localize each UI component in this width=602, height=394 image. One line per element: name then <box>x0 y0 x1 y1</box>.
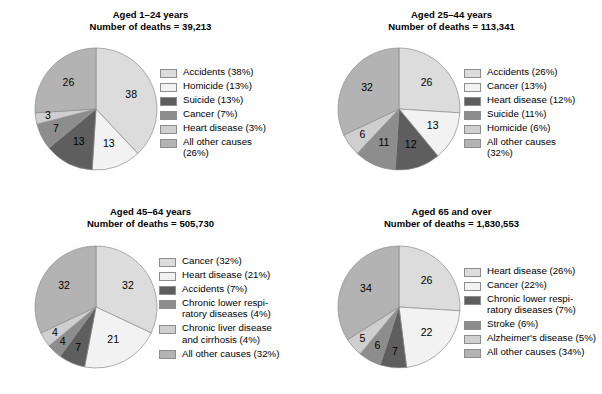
chart-title-line1: Aged 65 and over <box>412 206 492 217</box>
pie-slice-label: 7 <box>392 345 398 357</box>
pie-slice-label: 26 <box>421 274 433 286</box>
pie-slice-label: 26 <box>421 76 433 88</box>
legend-2: Accidents (26%)Cancer (13%)Heart disease… <box>464 66 602 161</box>
legend-swatch <box>464 83 481 92</box>
legend-item: Cancer (32%) <box>159 255 304 267</box>
pie-slice-label: 6 <box>374 339 380 351</box>
legend-label: Heart disease (26%) <box>487 265 575 276</box>
pie-slice-label: 11 <box>379 136 390 148</box>
legend-item: Homicide (6%) <box>464 122 602 134</box>
legend-swatch <box>464 139 481 148</box>
legend-swatch <box>464 349 481 358</box>
legend-swatch <box>160 139 177 148</box>
legend-item: Accidents (26%) <box>464 66 602 78</box>
pie-slice-label: 26 <box>63 76 75 88</box>
legend-swatch <box>464 296 481 305</box>
legend-label: Chronic lower respi- ratory diseases (4%… <box>182 297 271 320</box>
legend-label: Cancer (13%) <box>487 80 547 91</box>
legend-item: Heart disease (26%) <box>464 265 602 277</box>
pie-slice-label: 4 <box>52 326 58 338</box>
legend-label: Cancer (22%) <box>487 279 547 290</box>
pie-slice-label: 12 <box>405 138 417 150</box>
legend-item: Heart disease (12%) <box>464 94 602 106</box>
pie-slice-label: 22 <box>421 326 433 338</box>
chart-title-2: Aged 25–44 years Number of deaths = 113,… <box>301 9 602 32</box>
pie-slice-label: 7 <box>53 122 59 134</box>
chart-title-line1: Aged 45–64 years <box>110 206 191 217</box>
pie-chart-1: 3813137326 <box>34 47 158 171</box>
legend-swatch <box>159 325 176 334</box>
legend-item: Cancer (7%) <box>160 108 295 120</box>
legend-item: Homicide (13%) <box>160 80 295 92</box>
chart-subtitle-line2: Number of deaths = 113,341 <box>301 21 602 33</box>
legend-item: Suicide (13%) <box>160 94 295 106</box>
legend-item: Heart disease (21%) <box>159 269 304 281</box>
pie-chart-2: 26131211632 <box>337 47 461 171</box>
legend-swatch <box>160 69 177 78</box>
pie-chart-3: 322174432 <box>34 245 158 369</box>
legend-label: Heart disease (12%) <box>487 94 575 105</box>
legend-label: All other causes (26%) <box>183 136 252 159</box>
legend-swatch <box>464 69 481 78</box>
legend-label: Heart disease (21%) <box>182 269 270 280</box>
chart-title-line1: Aged 25–44 years <box>411 9 492 20</box>
chart-panel-aged-65-over: Aged 65 and over Number of deaths = 1,83… <box>301 197 602 394</box>
pie-chart-4: 262276534 <box>337 245 461 369</box>
legend-item: Suicide (11%) <box>464 108 602 120</box>
legend-label: Chronic liver disease and cirrhosis (4%) <box>182 322 272 345</box>
legend-item: Chronic lower respi- ratory diseases (7%… <box>464 293 602 316</box>
pie-slice-label: 4 <box>60 335 66 347</box>
legend-3: Cancer (32%)Heart disease (21%)Accidents… <box>159 255 304 362</box>
legend-label: All other causes (32%) <box>182 348 279 359</box>
chart-subtitle-line2: Number of deaths = 505,730 <box>0 218 301 230</box>
legend-item: All other causes (32%) <box>464 136 602 159</box>
legend-label: Cancer (32%) <box>182 255 242 266</box>
legend-label: Homicide (6%) <box>487 122 551 133</box>
legend-label: All other causes (32%) <box>487 136 556 159</box>
legend-swatch <box>159 300 176 309</box>
legend-label: Chronic lower respi- ratory diseases (7%… <box>487 293 576 316</box>
legend-swatch <box>159 350 176 359</box>
legend-item: Alzheimer's disease (5%) <box>464 332 602 344</box>
legend-item: Cancer (22%) <box>464 279 602 291</box>
legend-swatch <box>464 335 481 344</box>
legend-1: Accidents (38%)Homicide (13%)Suicide (13… <box>160 66 295 161</box>
chart-title-line1: Aged 1–24 years <box>113 9 189 20</box>
legend-item: Stroke (6%) <box>464 318 602 330</box>
legend-label: Stroke (6%) <box>487 318 538 329</box>
legend-label: Accidents (26%) <box>487 66 558 77</box>
legend-swatch <box>159 258 176 267</box>
legend-label: Accidents (7%) <box>182 283 247 294</box>
pie-slice-label: 6 <box>360 128 366 140</box>
legend-swatch <box>160 125 177 134</box>
legend-item: Chronic liver disease and cirrhosis (4%) <box>159 322 304 345</box>
legend-item: Chronic lower respi- ratory diseases (4%… <box>159 297 304 320</box>
pie-slice-label: 32 <box>361 81 373 93</box>
legend-swatch <box>159 272 176 281</box>
legend-label: All other causes (34%) <box>487 346 584 357</box>
legend-swatch <box>464 125 481 134</box>
pie-slice-label: 34 <box>360 282 372 294</box>
pie-slice-label: 5 <box>359 332 365 344</box>
legend-item: All other causes (26%) <box>160 136 295 159</box>
pie-slice-label: 32 <box>122 279 134 291</box>
legend-swatch <box>464 268 481 277</box>
chart-title-4: Aged 65 and over Number of deaths = 1,83… <box>301 206 602 229</box>
chart-title-3: Aged 45–64 years Number of deaths = 505,… <box>0 206 301 229</box>
legend-swatch <box>160 111 177 120</box>
legend-label: Cancer (7%) <box>183 108 237 119</box>
pie-slice-label: 13 <box>427 119 439 131</box>
legend-label: Alzheimer's disease (5%) <box>487 332 596 343</box>
legend-item: Cancer (13%) <box>464 80 602 92</box>
legend-item: Accidents (7%) <box>159 283 304 295</box>
legend-label: Suicide (11%) <box>487 108 547 119</box>
legend-label: Homicide (13%) <box>183 80 252 91</box>
legend-swatch <box>160 97 177 106</box>
legend-4: Heart disease (26%)Cancer (22%)Chronic l… <box>464 265 602 360</box>
pie-slice-label: 7 <box>75 341 81 353</box>
legend-swatch <box>464 282 481 291</box>
legend-swatch <box>464 111 481 120</box>
pie-slice-label: 3 <box>45 109 51 121</box>
legend-item: Accidents (38%) <box>160 66 295 78</box>
legend-swatch <box>464 321 481 330</box>
